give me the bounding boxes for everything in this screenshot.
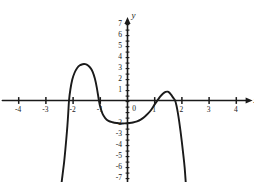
x-axis-label: x <box>253 95 254 105</box>
y-tick-label: 7 <box>118 19 122 28</box>
y-tick-label: -4 <box>116 140 122 149</box>
x-axis-arrowhead <box>246 97 253 103</box>
axis-group <box>2 17 252 182</box>
x-tick-label: -2 <box>69 105 75 114</box>
y-tick-label: 1 <box>118 85 122 94</box>
y-tick-label: -7 <box>116 173 122 182</box>
y-tick-label: 4 <box>118 52 122 61</box>
y-tick-label: 3 <box>118 63 122 72</box>
origin-label: 0 <box>132 104 136 113</box>
y-tick-label: -5 <box>116 151 122 160</box>
x-tick-label: 3 <box>207 105 211 114</box>
coordinate-plane: -4-3-2-11234-7-6-5-4-3-212345670 x y <box>0 0 254 182</box>
x-tick-label: -3 <box>42 105 48 114</box>
y-tick-label: 6 <box>118 30 122 39</box>
x-tick-label: 2 <box>180 105 184 114</box>
y-axis-label: y <box>131 10 136 20</box>
y-tick-label: -3 <box>116 129 122 138</box>
graph-figure: -4-3-2-11234-7-6-5-4-3-212345670 x y <box>0 0 254 182</box>
polynomial-curve <box>62 64 186 182</box>
y-axis-arrowhead <box>124 17 130 24</box>
y-tick-label: 2 <box>118 74 122 83</box>
x-tick-label: 4 <box>234 105 238 114</box>
y-tick-label: -6 <box>116 162 122 171</box>
x-tick-label: -4 <box>15 105 21 114</box>
y-tick-label: 5 <box>118 41 122 50</box>
